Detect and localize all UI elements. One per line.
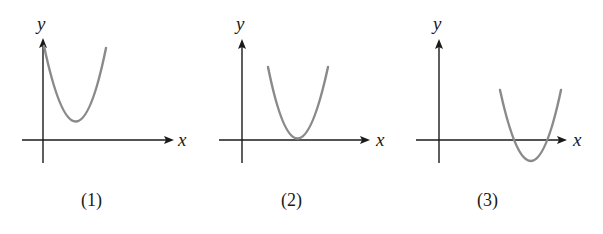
figure-caption: (2) [281, 190, 302, 211]
x-axis-label: x [572, 129, 582, 150]
y-axis-label: y [35, 13, 46, 34]
figure-2: y x (2) [219, 13, 385, 211]
parabola-curve [268, 67, 328, 139]
y-axis-label: y [431, 13, 442, 34]
y-axis-label: y [234, 13, 245, 34]
x-axis-label: x [177, 129, 187, 150]
x-axis-label: x [375, 129, 385, 150]
figure-1: y x (1) [22, 13, 187, 211]
figure-caption: (1) [81, 190, 102, 211]
figure-caption: (3) [477, 190, 498, 211]
parabola-curve [500, 90, 561, 161]
parabola-figures: y x (1) y x (2) y x (3) [0, 0, 603, 234]
figure-3: y x (3) [416, 13, 582, 211]
parabola-curve [44, 46, 106, 122]
